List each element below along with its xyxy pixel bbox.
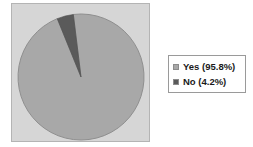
legend-item-yes: Yes (95.8%)	[173, 59, 241, 74]
pie-svg	[12, 4, 150, 142]
legend-label-yes: Yes (95.8%)	[183, 61, 235, 72]
legend-swatch-no-icon	[173, 79, 179, 85]
legend-label-no: No (4.2%)	[183, 76, 226, 87]
legend-swatch-yes-icon	[173, 64, 179, 70]
legend: Yes (95.8%) No (4.2%)	[168, 55, 246, 93]
legend-item-no: No (4.2%)	[173, 74, 241, 89]
pie-slices	[18, 14, 144, 140]
pie-chart-figure: Yes (95.8%) No (4.2%)	[0, 0, 253, 147]
plot-panel	[11, 3, 150, 142]
